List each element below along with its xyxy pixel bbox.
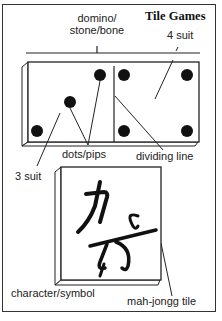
domino-bracket — [26, 46, 200, 53]
label-domino-line2: stone/bone — [65, 24, 129, 36]
label-domino-line1: domino/ — [65, 12, 129, 24]
label-mahjongg-tile: mah-jongg tile — [127, 295, 196, 307]
label-three-suit: 3 suit — [15, 170, 41, 182]
diagram-title: Tile Games — [145, 9, 206, 24]
label-dividing-line: dividing line — [136, 150, 193, 162]
label-domino: domino/ stone/bone — [65, 12, 129, 36]
mahjongg-tile — [55, 167, 161, 285]
domino-tile — [22, 62, 199, 146]
label-character-symbol: character/symbol — [11, 287, 95, 299]
label-dots-pips: dots/pips — [62, 148, 106, 160]
label-four-suit: 4 suit — [167, 29, 193, 41]
